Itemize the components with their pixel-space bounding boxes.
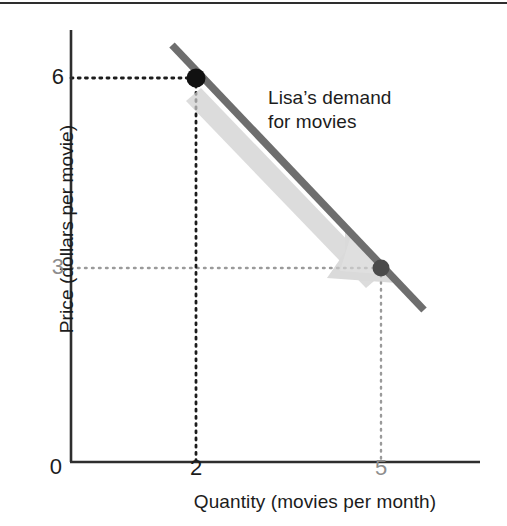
y-tick-label-3: 3: [44, 256, 64, 278]
x-axis-title: Quantity (movies per month): [130, 491, 500, 513]
x-tick-label-2: 2: [186, 457, 206, 479]
data-point-quantity-2-price-6[interactable]: [187, 69, 206, 88]
y-tick-label-6: 6: [44, 66, 64, 88]
demand-curve-figure: Price (dollars per movie) Quantity (movi…: [0, 0, 507, 526]
y-axis-title: Price (dollars per movie): [56, 79, 78, 379]
demand-curve-annotation: Lisa’s demand for movies: [268, 86, 391, 135]
x-tick-label-5: 5: [371, 457, 391, 479]
data-point-quantity-5-price-3[interactable]: [373, 260, 390, 277]
origin-label: 0: [42, 456, 62, 478]
